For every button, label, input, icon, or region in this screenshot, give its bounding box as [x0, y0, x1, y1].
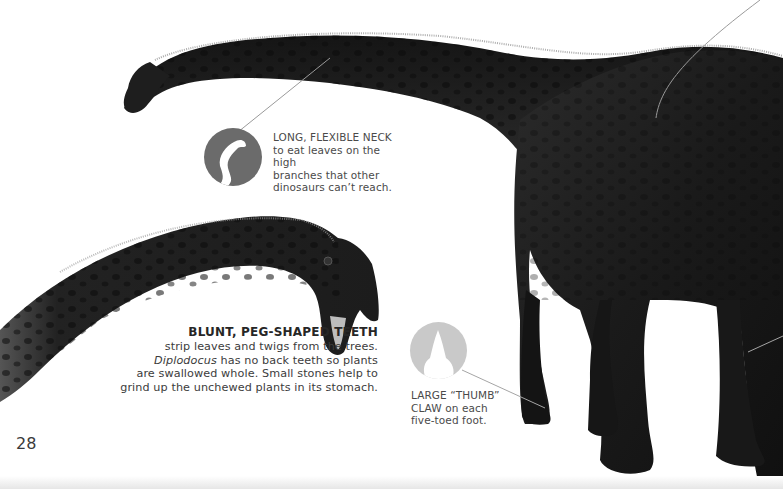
teeth-caption-line: strip leaves and twigs from the trees. [60, 340, 378, 354]
neck-caption-line: dinosaurs can’t reach. [273, 181, 403, 194]
claw-icon [410, 322, 467, 379]
neck-caption-line: to eat leaves on the high [273, 144, 403, 169]
neck-caption-heading: LONG, FLEXIBLE NECK [273, 131, 403, 144]
claw-caption-line: five-toed foot. [411, 414, 521, 427]
teeth-caption-heading: BLUNT, PEG-SHAPED TEETH [60, 326, 378, 340]
neck-silhouette-icon [204, 128, 262, 186]
claw-caption-heading: LARGE “THUMB” [411, 389, 521, 402]
teeth-caption-text: has no back teeth so plants [217, 354, 378, 367]
claw-caption: LARGE “THUMB” CLAW on each five-toed foo… [411, 389, 521, 427]
teeth-caption: BLUNT, PEG-SHAPED TEETH strip leaves and… [60, 326, 378, 395]
teeth-caption-line: Diplodocus has no back teeth so plants [60, 354, 378, 368]
neck-caption: LONG, FLEXIBLE NECK to eat leaves on the… [273, 131, 403, 194]
diplodocus-illustration [0, 0, 783, 489]
page-edge-shadow [0, 476, 783, 489]
neck-caption-line: branches that other [273, 169, 403, 182]
claw-caption-line: CLAW on each [411, 402, 521, 415]
teeth-caption-line: are swallowed whole. Small stones help t… [60, 367, 378, 381]
book-page: LONG, FLEXIBLE NECK to eat leaves on the… [0, 0, 783, 489]
teeth-caption-line: grind up the unchewed plants in its stom… [60, 381, 378, 395]
page-number: 28 [16, 434, 36, 453]
species-name: Diplodocus [154, 354, 217, 367]
